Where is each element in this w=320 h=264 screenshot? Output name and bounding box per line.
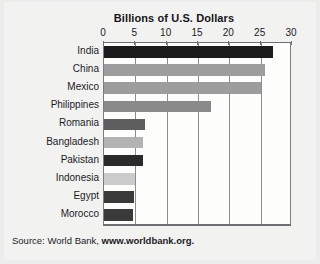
source-website: www.worldbank.org. xyxy=(102,235,195,246)
x-tick-label-20: 20 xyxy=(223,27,234,38)
bar-row: Indonesia xyxy=(104,170,290,188)
bar-row: China xyxy=(104,61,290,79)
x-axis-tick-labels: 051015202530 xyxy=(103,27,291,41)
category-label-romania: Romania xyxy=(7,117,99,128)
plot-area: IndiaChinaMexicoPhilippinesRomaniaBangla… xyxy=(103,43,291,224)
x-axis-bottom-line xyxy=(103,224,291,226)
x-tick-label-10: 10 xyxy=(160,27,171,38)
bar-row: Mexico xyxy=(104,79,290,97)
bar-china xyxy=(104,64,265,76)
bar-india xyxy=(104,46,273,58)
bar-philippines xyxy=(104,101,211,113)
bar-egypt xyxy=(104,191,134,203)
bar-pakistan xyxy=(104,155,143,167)
bar-morocco xyxy=(104,209,133,221)
category-label-indonesia: Indonesia xyxy=(7,172,99,183)
x-tick-label-5: 5 xyxy=(132,27,138,38)
category-label-bangladesh: Bangladesh xyxy=(7,136,99,147)
x-tick-label-15: 15 xyxy=(191,27,202,38)
x-tick-mark-25 xyxy=(260,41,261,45)
bar-row: Philippines xyxy=(104,97,290,115)
x-tick-label-25: 25 xyxy=(254,27,265,38)
chart-title: Billions of U.S. Dollars xyxy=(4,12,316,24)
bar-romania xyxy=(104,119,145,131)
bar-row: Egypt xyxy=(104,188,290,206)
bar-row: Bangladesh xyxy=(104,134,290,152)
x-tick-mark-10 xyxy=(166,41,167,45)
source-note: Source: World Bank, www.worldbank.org. xyxy=(12,235,194,246)
x-tick-mark-0 xyxy=(103,41,104,45)
source-prefix: Source: World Bank, xyxy=(12,235,102,246)
chart-figure: Billions of U.S. Dollars 051015202530 In… xyxy=(4,2,316,260)
bar-row: Pakistan xyxy=(104,152,290,170)
x-tick-mark-30 xyxy=(291,41,292,45)
x-tick-mark-15 xyxy=(197,41,198,45)
category-label-philippines: Philippines xyxy=(7,99,99,110)
category-label-egypt: Egypt xyxy=(7,190,99,201)
category-label-india: India xyxy=(7,45,99,56)
category-label-mexico: Mexico xyxy=(7,81,99,92)
bar-indonesia xyxy=(104,173,135,185)
category-label-pakistan: Pakistan xyxy=(7,154,99,165)
category-label-morocco: Morocco xyxy=(7,208,99,219)
bar-row: Morocco xyxy=(104,206,290,224)
x-tick-mark-5 xyxy=(134,41,135,45)
x-tick-mark-20 xyxy=(228,41,229,45)
bar-mexico xyxy=(104,82,261,94)
bar-bangladesh xyxy=(104,137,143,149)
x-tick-label-30: 30 xyxy=(285,27,296,38)
bar-series: IndiaChinaMexicoPhilippinesRomaniaBangla… xyxy=(104,43,290,224)
bar-row: Romania xyxy=(104,115,290,133)
category-label-china: China xyxy=(7,63,99,74)
x-tick-label-0: 0 xyxy=(100,27,106,38)
bar-row: India xyxy=(104,43,290,61)
